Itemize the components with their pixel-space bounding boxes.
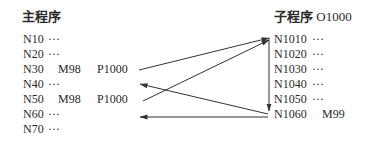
return-arrow-n1060-to-n40: [140, 84, 268, 114]
flow-arrows: [0, 0, 368, 141]
call-arrow-n30-to-n1010: [139, 38, 269, 70]
call-arrow-n50-to-n1010: [143, 40, 269, 101]
